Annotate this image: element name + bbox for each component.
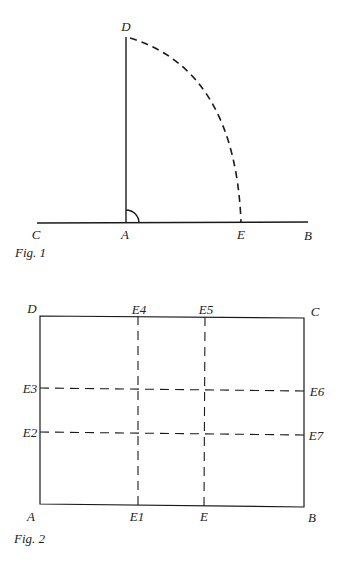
line-cb (37, 222, 308, 223)
fig2-label-e3: E3 (23, 382, 37, 395)
fig2-label-e5: E5 (199, 303, 213, 316)
fig2-label-e7: E7 (309, 429, 323, 442)
fig2-caption: Fig. 2 (14, 532, 45, 545)
fig2-label-c: C (311, 305, 320, 318)
figure-1 (37, 37, 308, 223)
fig2-label-e4: E4 (132, 303, 146, 316)
rectangle-abcd (40, 316, 304, 507)
fig1-label-c: C (32, 228, 41, 241)
dashed-arc-de (130, 38, 241, 222)
right-angle-mark (126, 210, 139, 223)
dashed-e2-e7 (40, 432, 304, 435)
fig2-label-e1: E1 (130, 510, 144, 523)
fig2-label-e: E (200, 510, 208, 523)
fig2-label-e2: E2 (23, 426, 37, 439)
dashed-e-e5 (204, 317, 205, 506)
fig2-label-a: A (27, 510, 35, 523)
figure-2 (40, 316, 304, 507)
diagram-canvas (0, 0, 343, 562)
fig2-label-e6: E6 (310, 385, 324, 398)
fig1-label-a: A (121, 228, 129, 241)
fig1-label-b: B (304, 229, 312, 242)
fig2-label-b: B (308, 511, 316, 524)
fig1-label-d: D (121, 20, 130, 33)
fig1-label-e: E (237, 228, 245, 241)
dashed-e3-e6 (40, 388, 304, 391)
fig2-label-d: D (27, 302, 36, 315)
fig1-caption: Fig. 1 (15, 246, 46, 259)
